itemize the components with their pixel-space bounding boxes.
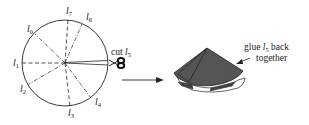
label-l1: l1	[13, 57, 19, 69]
annotation-arrow-icon	[236, 58, 250, 64]
circle-panel: l0 l1 l2 l3 l4 l6 l7 cut l5	[13, 5, 131, 119]
cone-body	[174, 48, 243, 86]
right-arrow-icon	[122, 77, 164, 83]
line-l4	[65, 63, 91, 98]
label-l6: l6	[86, 11, 93, 23]
line-l5-cut-bottom	[65, 63, 108, 65]
label-l0: l0	[27, 23, 33, 35]
folding-diagram: l0 l1 l2 l3 l4 l6 l7 cut l5	[0, 0, 309, 125]
line-l3	[65, 63, 70, 106]
cone-panel	[174, 48, 245, 92]
glue-annotation-line2: together	[256, 53, 288, 63]
line-l2	[29, 63, 65, 84]
line-l7	[65, 20, 68, 63]
cut-label: cut l5	[111, 47, 131, 58]
glue-annotation-line1: glue l5 back	[244, 42, 289, 53]
label-l7: l7	[66, 5, 73, 17]
line-l0	[35, 34, 65, 63]
label-l3: l3	[68, 107, 74, 119]
label-l4: l4	[95, 96, 102, 108]
scissors-icon	[109, 58, 124, 68]
line-l5-cut-top	[65, 61, 108, 63]
label-l2: l2	[20, 83, 26, 95]
